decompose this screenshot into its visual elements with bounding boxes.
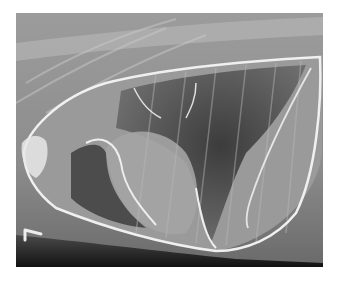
radiograph-graphic [16, 13, 323, 267]
radiograph-image [16, 13, 323, 267]
lateral-marker: L [23, 227, 43, 241]
lateral-marker-icon [23, 228, 43, 242]
